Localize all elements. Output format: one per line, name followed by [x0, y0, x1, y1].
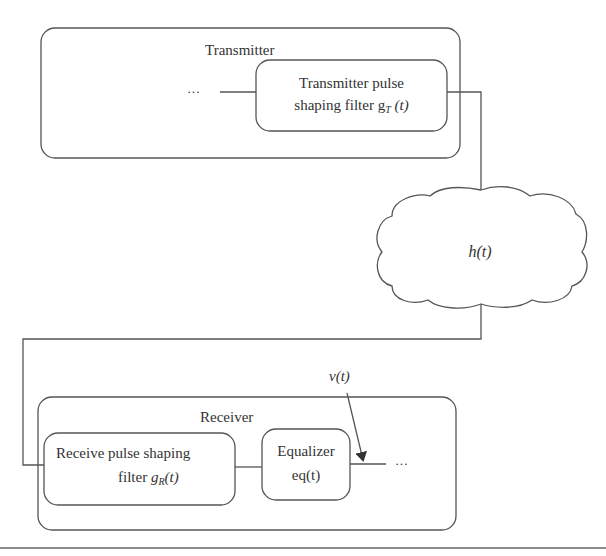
tx-filter-label-line2: shaping filter gT (t)	[256, 95, 447, 120]
rx-filter-text: filter	[118, 469, 151, 485]
rx-filter-label-line2: filter gR(t)	[118, 467, 179, 492]
equalizer-label-line2: eq(t)	[262, 465, 350, 485]
transmitter-title: Transmitter	[205, 40, 274, 60]
tx-filter-text: shaping filter g	[294, 97, 385, 113]
tx-to-channel-wire	[447, 92, 481, 190]
tx-filter-arg: (t)	[391, 97, 409, 113]
noise-label: ν(t)	[329, 366, 350, 386]
rx-filter-arg: (t)	[165, 469, 179, 485]
tx-input-ellipsis: ···	[187, 82, 200, 102]
rx-output-ellipsis: ···	[395, 454, 408, 474]
equalizer-label-line1: Equalizer	[262, 441, 350, 461]
rx-filter-label-line1: Receive pulse shaping	[56, 443, 190, 463]
tx-filter-label-line1: Transmitter pulse	[256, 73, 447, 93]
receiver-title: Receiver	[200, 407, 253, 427]
channel-label: h(t)	[440, 242, 520, 262]
channel-to-rx-wire	[23, 304, 481, 465]
communication-system-diagram: Transmitter ··· Transmitter pulse shapin…	[0, 0, 606, 556]
